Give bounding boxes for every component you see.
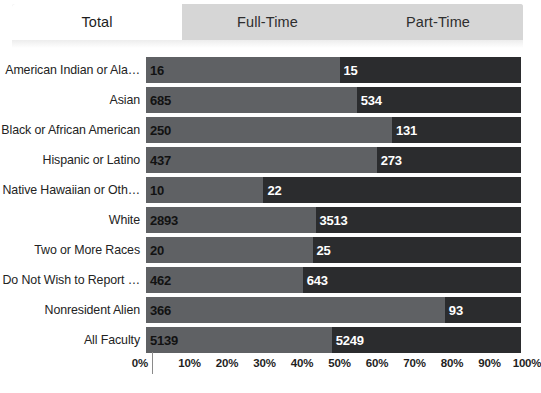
chart-row: Do Not Wish to Report …462643 bbox=[0, 265, 535, 295]
stacked-bar[interactable]: 437273 bbox=[146, 147, 521, 173]
bar-segment-part-time[interactable]: 534 bbox=[357, 87, 521, 113]
category-label: Hispanic or Latino bbox=[0, 153, 146, 167]
stacked-bar-chart: American Indian or Ala…1615Asian685534Bl… bbox=[0, 52, 535, 393]
bar-segment-full-time[interactable]: 20 bbox=[146, 237, 313, 263]
chart-row: American Indian or Ala…1615 bbox=[0, 55, 535, 85]
x-tick-label: 100% bbox=[513, 357, 541, 369]
tab-part-time-label: Part-Time bbox=[406, 14, 470, 30]
tab-total[interactable]: Total bbox=[12, 4, 182, 40]
x-tick-label: 20% bbox=[216, 357, 238, 369]
bar-segment-full-time[interactable]: 366 bbox=[146, 297, 445, 323]
chart-rows: American Indian or Ala…1615Asian685534Bl… bbox=[0, 55, 535, 355]
tab-bar-shadow bbox=[12, 40, 523, 48]
bar-value-full-time: 16 bbox=[146, 63, 164, 78]
bar-segment-full-time[interactable]: 5139 bbox=[146, 327, 332, 353]
category-label: Nonresident Alien bbox=[0, 303, 146, 317]
tab-full-time-label: Full-Time bbox=[237, 14, 298, 30]
chart-row: All Faculty51395249 bbox=[0, 325, 535, 355]
category-label: Native Hawaiian or Oth… bbox=[0, 183, 146, 197]
bar-segment-full-time[interactable]: 250 bbox=[146, 117, 392, 143]
bar-value-part-time: 5249 bbox=[332, 333, 364, 348]
category-label: American Indian or Ala… bbox=[0, 63, 146, 77]
bar-segment-part-time[interactable]: 3513 bbox=[316, 207, 522, 233]
bar-segment-full-time[interactable]: 10 bbox=[146, 177, 263, 203]
bar-segment-full-time[interactable]: 685 bbox=[146, 87, 357, 113]
axis-origin-line bbox=[152, 352, 153, 374]
x-tick-label: 40% bbox=[291, 357, 313, 369]
bar-segment-full-time[interactable]: 462 bbox=[146, 267, 303, 293]
stacked-bar[interactable]: 1615 bbox=[146, 57, 521, 83]
x-tick-label: 90% bbox=[478, 357, 500, 369]
bar-value-full-time: 366 bbox=[146, 303, 171, 318]
view-tab-bar[interactable]: Total Full-Time Part-Time bbox=[12, 4, 523, 40]
category-label: White bbox=[0, 213, 146, 227]
bar-value-full-time: 2893 bbox=[146, 213, 178, 228]
x-tick-label: 70% bbox=[403, 357, 425, 369]
x-tick-label: 80% bbox=[441, 357, 463, 369]
bar-value-part-time: 25 bbox=[313, 243, 331, 258]
stacked-bar[interactable]: 250131 bbox=[146, 117, 521, 143]
chart-row: Asian685534 bbox=[0, 85, 535, 115]
tab-part-time[interactable]: Part-Time bbox=[353, 4, 523, 40]
bar-segment-part-time[interactable]: 273 bbox=[377, 147, 521, 173]
bar-segment-full-time[interactable]: 437 bbox=[146, 147, 377, 173]
bar-segment-full-time[interactable]: 16 bbox=[146, 57, 340, 83]
x-axis: 0%10%20%30%40%50%60%70%80%90%100% bbox=[0, 355, 535, 379]
bar-value-full-time: 10 bbox=[146, 183, 164, 198]
bar-segment-part-time[interactable]: 22 bbox=[263, 177, 521, 203]
bar-value-full-time: 437 bbox=[146, 153, 171, 168]
bar-segment-part-time[interactable]: 131 bbox=[392, 117, 521, 143]
bar-value-full-time: 685 bbox=[146, 93, 171, 108]
category-label: All Faculty bbox=[0, 333, 146, 347]
stacked-bar[interactable]: 2025 bbox=[146, 237, 521, 263]
bar-value-part-time: 93 bbox=[445, 303, 463, 318]
category-label: Black or African American bbox=[0, 123, 146, 137]
bar-value-part-time: 15 bbox=[340, 63, 358, 78]
bar-segment-part-time[interactable]: 643 bbox=[303, 267, 521, 293]
stacked-bar[interactable]: 462643 bbox=[146, 267, 521, 293]
bar-value-full-time: 462 bbox=[146, 273, 171, 288]
x-tick-label: 50% bbox=[328, 357, 350, 369]
category-label: Two or More Races bbox=[0, 243, 146, 257]
stacked-bar[interactable]: 36693 bbox=[146, 297, 521, 323]
bar-value-part-time: 643 bbox=[303, 273, 328, 288]
stacked-bar[interactable]: 28933513 bbox=[146, 207, 521, 233]
bar-segment-part-time[interactable]: 15 bbox=[340, 57, 522, 83]
chart-row: White28933513 bbox=[0, 205, 535, 235]
stacked-bar[interactable]: 685534 bbox=[146, 87, 521, 113]
bar-value-full-time: 5139 bbox=[146, 333, 178, 348]
stacked-bar[interactable]: 1022 bbox=[146, 177, 521, 203]
bar-segment-full-time[interactable]: 2893 bbox=[146, 207, 316, 233]
x-tick-label: 60% bbox=[366, 357, 388, 369]
bar-value-part-time: 131 bbox=[392, 123, 417, 138]
tab-full-time[interactable]: Full-Time bbox=[182, 4, 353, 40]
category-label: Do Not Wish to Report … bbox=[0, 273, 146, 287]
x-tick-label: 30% bbox=[253, 357, 275, 369]
tab-total-label: Total bbox=[81, 14, 112, 30]
chart-row: Native Hawaiian or Oth…1022 bbox=[0, 175, 535, 205]
stacked-bar[interactable]: 51395249 bbox=[146, 327, 521, 353]
bar-value-full-time: 250 bbox=[146, 123, 171, 138]
x-tick-label: 0% bbox=[132, 357, 152, 369]
bar-segment-part-time[interactable]: 25 bbox=[313, 237, 522, 263]
bar-value-full-time: 20 bbox=[146, 243, 164, 258]
chart-row: Hispanic or Latino437273 bbox=[0, 145, 535, 175]
bar-value-part-time: 534 bbox=[357, 93, 382, 108]
bar-value-part-time: 22 bbox=[263, 183, 281, 198]
category-label: Asian bbox=[0, 93, 146, 107]
x-tick-label: 10% bbox=[178, 357, 200, 369]
bar-segment-part-time[interactable]: 93 bbox=[445, 297, 521, 323]
chart-row: Nonresident Alien36693 bbox=[0, 295, 535, 325]
chart-row: Black or African American250131 bbox=[0, 115, 535, 145]
bar-value-part-time: 3513 bbox=[316, 213, 348, 228]
bar-segment-part-time[interactable]: 5249 bbox=[332, 327, 521, 353]
bar-value-part-time: 273 bbox=[377, 153, 402, 168]
chart-row: Two or More Races2025 bbox=[0, 235, 535, 265]
